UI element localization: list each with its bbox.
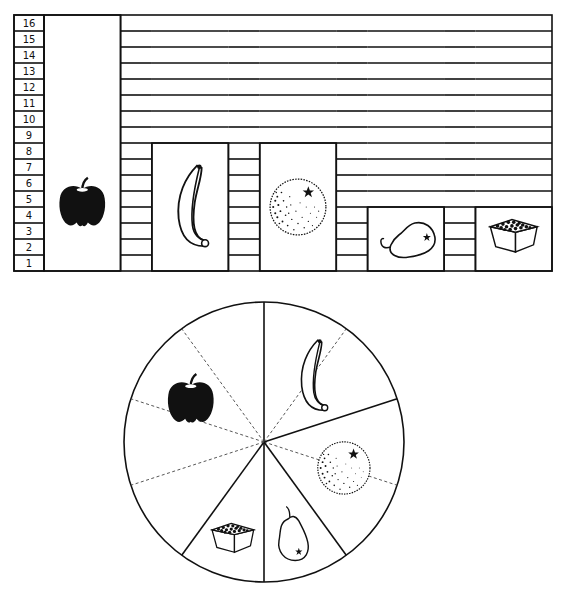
y-tick-label: 14 <box>23 50 36 61</box>
pear-icon <box>381 223 435 258</box>
y-tick-label: 7 <box>26 162 32 173</box>
pie-slice-berries <box>182 442 264 582</box>
slice-boundary <box>264 399 397 442</box>
y-tick-label: 15 <box>23 34 36 45</box>
banana-icon <box>178 164 208 246</box>
y-tick-label: 13 <box>23 66 36 77</box>
y-tick-label: 12 <box>23 82 36 93</box>
y-tick-label: 2 <box>26 242 32 253</box>
y-tick-label: 16 <box>23 18 36 29</box>
apple-icon <box>168 374 214 423</box>
berries-icon <box>490 220 537 252</box>
pie-chart <box>124 302 404 582</box>
y-tick-label: 5 <box>26 194 32 205</box>
y-tick-label: 11 <box>23 98 36 109</box>
y-tick-label: 1 <box>26 258 32 269</box>
y-tick-label: 10 <box>23 114 36 125</box>
banana-icon <box>301 339 327 411</box>
bar-chart: 12345678910111213141516 <box>14 15 552 271</box>
pie-slice-apple <box>124 302 264 555</box>
berries-icon <box>212 523 254 552</box>
slice-subdivision <box>131 442 264 485</box>
orange-icon <box>270 179 326 235</box>
orange-icon <box>318 442 370 494</box>
bar-apple <box>44 15 121 271</box>
fruit-charts: 12345678910111213141516 <box>0 0 568 594</box>
y-tick-label: 3 <box>26 226 32 237</box>
y-tick-label: 9 <box>26 130 32 141</box>
y-tick-label: 4 <box>26 210 32 221</box>
pear-icon <box>279 506 309 560</box>
y-tick-label: 6 <box>26 178 32 189</box>
apple-icon <box>59 178 105 227</box>
y-tick-label: 8 <box>26 146 32 157</box>
